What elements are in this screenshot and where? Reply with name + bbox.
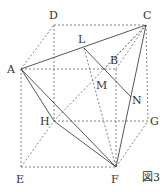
figure-label: 図3 xyxy=(142,172,160,183)
label-h: H xyxy=(40,116,50,127)
label-e: E xyxy=(16,174,24,185)
label-f: F xyxy=(111,174,119,185)
label-n: N xyxy=(132,95,142,106)
diagram-lines xyxy=(0,0,168,192)
cube-diagram: A B C D E F G H L M N 図3 xyxy=(0,0,168,192)
label-a: A xyxy=(7,64,15,75)
label-c: C xyxy=(143,10,151,21)
label-b: B xyxy=(110,55,118,66)
label-g: G xyxy=(150,116,159,127)
label-l: L xyxy=(78,34,85,45)
label-m: M xyxy=(96,80,107,91)
label-d: D xyxy=(49,10,58,21)
